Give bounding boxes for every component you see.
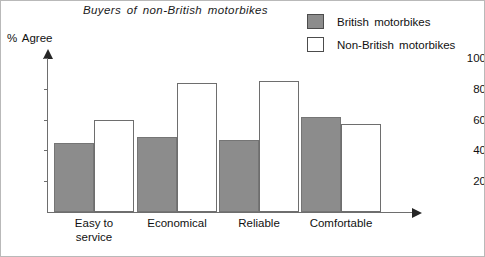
y-axis-tick-label: 80	[444, 83, 485, 95]
bar-non-british	[341, 124, 381, 212]
y-axis-tick-mark	[44, 120, 48, 121]
bar-non-british	[177, 83, 217, 212]
x-axis-line	[47, 212, 414, 213]
plot-area: 20406080100Easy to serviceEconomicalReli…	[1, 1, 485, 257]
bar-non-british	[259, 81, 299, 212]
y-axis-tick-mark	[44, 89, 48, 90]
bar-british	[301, 117, 341, 212]
y-axis-tick-label: 40	[444, 144, 485, 156]
bar-non-british	[94, 120, 134, 212]
x-axis-arrow-icon	[412, 208, 422, 218]
y-axis-line	[47, 58, 48, 213]
y-axis-tick-mark	[44, 58, 48, 59]
chart-figure: Buyers of non-British motorbikes British…	[0, 0, 485, 257]
x-axis-category-label: Comfortable	[283, 216, 399, 230]
y-axis-tick-mark	[44, 150, 48, 151]
bar-british	[54, 143, 94, 212]
y-axis-tick-label: 20	[444, 175, 485, 187]
bar-british	[137, 137, 177, 212]
y-axis-tick-label: 60	[444, 114, 485, 126]
bar-british	[219, 140, 259, 212]
y-axis-tick-mark	[44, 181, 48, 182]
y-axis-tick-label: 100	[444, 52, 485, 64]
